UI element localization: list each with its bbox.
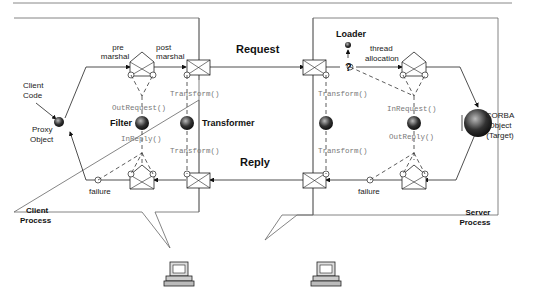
svg-text:Client: Client xyxy=(23,81,44,90)
envelope-icon xyxy=(187,60,210,75)
filter-label: Filter xyxy=(110,118,133,128)
loader-icon xyxy=(345,42,351,48)
svg-text:Transform(): Transform() xyxy=(318,147,368,155)
server-filter-icon xyxy=(407,116,421,130)
svg-text:Code: Code xyxy=(23,91,43,100)
svg-text:?: ? xyxy=(345,61,352,73)
server-transformer-icon xyxy=(319,116,333,130)
server-computer-icon xyxy=(311,262,341,286)
corba-interceptor-diagram: Request Reply Client Code Proxy Object p… xyxy=(0,0,539,304)
svg-text:Process: Process xyxy=(459,218,491,227)
svg-text:Client: Client xyxy=(26,206,49,215)
svg-text:Proxy: Proxy xyxy=(32,125,52,134)
svg-text:marshal: marshal xyxy=(101,52,130,61)
proxy-object-icon xyxy=(54,117,64,127)
svg-text:Transform(): Transform() xyxy=(318,90,368,98)
client-computer-icon xyxy=(164,262,194,286)
envelope-icon xyxy=(187,173,210,188)
svg-text:Transform(): Transform() xyxy=(170,90,220,98)
svg-text:OutReply(): OutReply() xyxy=(389,133,434,141)
open-envelope-icon xyxy=(402,52,426,76)
svg-text:InReply(): InReply() xyxy=(121,135,162,143)
svg-text:Server: Server xyxy=(466,208,491,217)
open-envelope-icon xyxy=(130,52,154,76)
svg-text:Object: Object xyxy=(30,135,54,144)
transformer-icon xyxy=(180,116,194,130)
svg-text:marshal: marshal xyxy=(156,52,185,61)
reply-label: Reply xyxy=(240,156,271,168)
svg-text:CORBA: CORBA xyxy=(486,111,515,120)
svg-text:pre: pre xyxy=(112,43,124,52)
svg-text:failure: failure xyxy=(89,187,111,196)
envelope-icon xyxy=(303,60,326,75)
svg-text:allocation: allocation xyxy=(365,54,399,63)
request-label: Request xyxy=(236,43,280,55)
svg-text:failure: failure xyxy=(358,187,380,196)
svg-text:post: post xyxy=(156,43,172,52)
svg-text:InRequest(): InRequest() xyxy=(387,105,437,113)
svg-text:Object: Object xyxy=(488,121,512,130)
envelope-icon xyxy=(303,173,326,188)
svg-text:OutRequest(): OutRequest() xyxy=(112,104,166,112)
filter-icon xyxy=(135,116,149,130)
svg-text:thread: thread xyxy=(370,44,393,53)
transformer-label: Transformer xyxy=(202,118,255,128)
svg-text:Process: Process xyxy=(20,216,52,225)
svg-text:Transform(): Transform() xyxy=(170,147,220,155)
loader-label: Loader xyxy=(336,29,367,39)
svg-text:(Target): (Target) xyxy=(486,131,514,140)
